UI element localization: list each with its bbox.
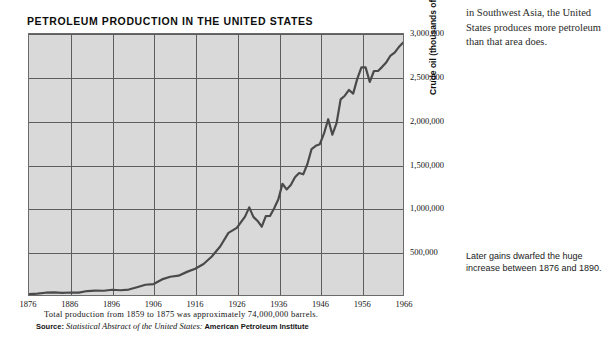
x-tick-label-1906: 1906	[145, 299, 162, 309]
y-axis-title: Crude oil (thousands of barrels)	[428, 0, 438, 95]
source-label: Source:	[36, 322, 64, 331]
source-agency: American Petroleum Institute	[204, 322, 308, 331]
y-tick-label-3000000: 3,000,000	[410, 28, 444, 38]
y-tick-label-2000000: 2,000,000	[410, 116, 444, 126]
y-tick-label-1000000: 1,000,000	[410, 203, 444, 213]
plot-area	[28, 33, 404, 296]
x-tick-label-1936: 1936	[270, 299, 287, 309]
y-tick-label-1500000: 1,500,000	[410, 160, 444, 170]
x-tick-label-1916: 1916	[187, 299, 204, 309]
x-tick-label-1966: 1966	[396, 299, 413, 309]
x-tick-label-1956: 1956	[354, 299, 371, 309]
x-tick-label-1876: 1876	[20, 299, 37, 309]
x-tick-label-1926: 1926	[228, 299, 245, 309]
x-tick-label-1946: 1946	[312, 299, 329, 309]
chart-page: PETROLEUM PRODUCTION IN THE UNITED STATE…	[0, 0, 610, 341]
crude-oil-production-line	[29, 43, 403, 294]
x-tick-label-1896: 1896	[103, 299, 120, 309]
source-publication: Statistical Abstract of the United State…	[66, 321, 203, 331]
x-tick-label-1886: 1886	[61, 299, 78, 309]
y-tick-label-500000: 500,000	[410, 247, 438, 257]
side-paragraph-top: in Southwest Asia, the United States pro…	[466, 6, 606, 50]
side-caption-bottom: Later gains dwarfed the huge increase be…	[466, 250, 606, 274]
chart-source-note: Source: Statistical Abstract of the Unit…	[36, 321, 309, 331]
y-tick-label-2500000: 2,500,000	[410, 72, 444, 82]
chart-figure: PETROLEUM PRODUCTION IN THE UNITED STATE…	[0, 0, 455, 341]
chart-note-total-production: Total production from 1859 to 1875 was a…	[44, 309, 318, 319]
data-series-line	[29, 34, 403, 295]
chart-title: PETROLEUM PRODUCTION IN THE UNITED STATE…	[27, 15, 313, 27]
